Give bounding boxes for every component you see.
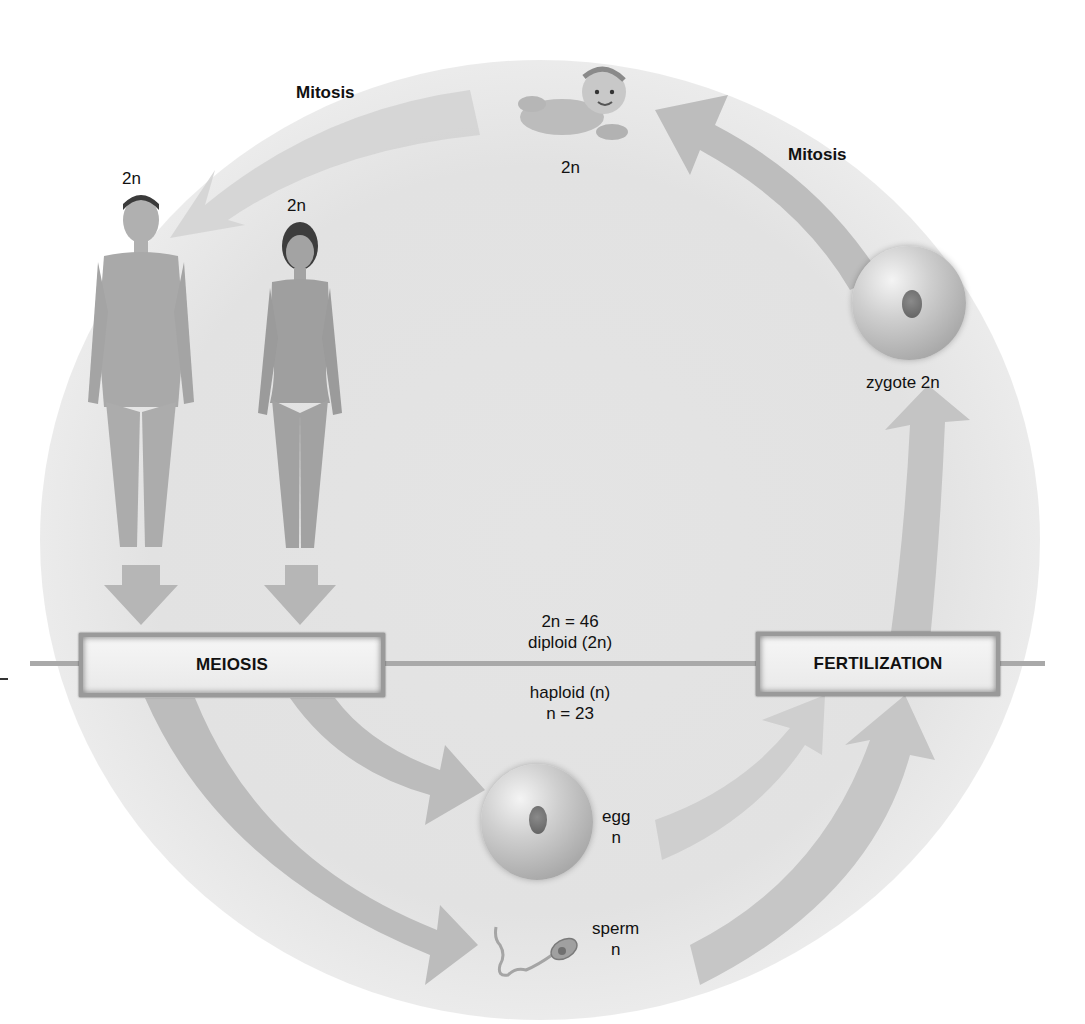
mitosis-label-right: Mitosis bbox=[788, 144, 847, 165]
female-adult-illustration bbox=[252, 218, 348, 556]
baby-ploidy-label: 2n bbox=[561, 157, 580, 178]
mitosis-label-left: Mitosis bbox=[296, 82, 355, 103]
sperm-name: sperm bbox=[592, 918, 639, 939]
meiosis-to-sperm-arrow bbox=[145, 698, 478, 985]
mitosis-arrow-to-baby bbox=[655, 95, 880, 290]
haploid-label: haploid (n) bbox=[510, 682, 630, 703]
sperm-label-block: sperm n bbox=[592, 918, 639, 960]
egg-ploidy: n bbox=[602, 827, 630, 848]
egg-to-fertilization-arrow bbox=[655, 695, 825, 860]
meiosis-to-egg-arrow bbox=[290, 698, 485, 825]
haploid-count: n = 23 bbox=[510, 703, 630, 724]
egg-label-block: egg n bbox=[602, 806, 630, 848]
meiosis-process-box: MEIOSIS bbox=[79, 633, 385, 697]
fertilization-label: FERTILIZATION bbox=[814, 654, 943, 674]
egg-nucleus bbox=[529, 806, 547, 834]
male-to-meiosis-arrow bbox=[104, 565, 178, 625]
left-edge-tick bbox=[0, 678, 8, 680]
meiosis-label: MEIOSIS bbox=[196, 655, 268, 675]
haploid-block: haploid (n) n = 23 bbox=[510, 682, 630, 724]
male-adult-illustration bbox=[82, 192, 200, 557]
zygote-nucleus bbox=[902, 290, 922, 318]
egg-cell bbox=[481, 764, 593, 880]
zygote-cell bbox=[852, 246, 966, 360]
female-ploidy-label: 2n bbox=[287, 195, 306, 216]
sperm-cell bbox=[492, 925, 592, 985]
diploid-count: 2n = 46 bbox=[510, 611, 630, 632]
male-ploidy-label: 2n bbox=[122, 168, 141, 189]
baby-illustration bbox=[512, 62, 632, 157]
sperm-ploidy: n bbox=[592, 939, 639, 960]
fertilization-process-box: FERTILIZATION bbox=[756, 632, 1000, 696]
female-to-meiosis-arrow bbox=[264, 565, 336, 625]
fertilization-to-zygote-arrow bbox=[885, 385, 970, 640]
zygote-label: zygote 2n bbox=[866, 372, 940, 393]
mitosis-arrow-to-adults bbox=[170, 90, 480, 238]
diploid-block: 2n = 46 diploid (2n) bbox=[510, 611, 630, 653]
egg-name: egg bbox=[602, 806, 630, 827]
diploid-label: diploid (2n) bbox=[510, 632, 630, 653]
